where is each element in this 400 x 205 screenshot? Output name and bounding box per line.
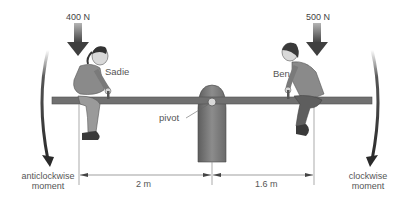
pivot-fulcrum [198, 85, 226, 162]
distance-label-left: 2 m [136, 180, 151, 190]
clockwise-moment-line2: moment [340, 182, 396, 192]
person-name-left: Sadie [105, 67, 129, 77]
force-label-right: 500 N [306, 13, 330, 23]
force-label-left: 400 N [66, 13, 90, 23]
ben-figure [282, 43, 324, 136]
anticlockwise-arrow-icon [42, 50, 54, 167]
dimension-right [213, 173, 313, 177]
anticlockwise-moment-line2: moment [16, 182, 80, 192]
clockwise-moment-label: clockwise moment [340, 172, 396, 192]
anticlockwise-moment-label: anticlockwise moment [16, 172, 80, 192]
force-arrow-500n-icon [306, 23, 328, 56]
seesaw-diagram: 400 N 500 N Sadie Ben pivot anticlockwis… [0, 0, 400, 205]
force-arrow-400n-icon [67, 23, 89, 56]
pivot-label: pivot [159, 113, 179, 123]
person-name-right: Ben [273, 69, 290, 79]
clockwise-arrow-icon [366, 50, 378, 167]
distance-label-right: 1.6 m [255, 180, 278, 190]
dimension-left [80, 173, 211, 177]
pivot-pin [208, 98, 216, 106]
